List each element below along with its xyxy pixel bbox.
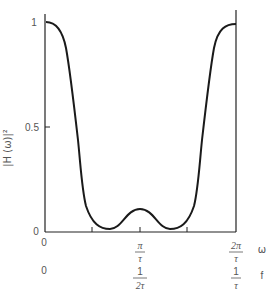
x-tick-label-one-f-den: τ	[234, 280, 238, 291]
x-tick-label-2pi-den: τ	[234, 253, 238, 264]
x-tick-label-2pi-num: 2π	[231, 240, 242, 251]
x-tick-label-pi-den: τ	[138, 253, 142, 264]
x-tick-label-0-f: 0	[41, 265, 47, 276]
x-tick-label-0-omega: 0	[41, 237, 47, 248]
y-tick-label-0: 0	[33, 226, 39, 237]
x-tick-label-half-f-den: 2τ	[136, 280, 145, 291]
response-curve	[46, 22, 236, 229]
omega-axis-label: ω	[258, 244, 266, 255]
x-tick-label-one-f-num: 1	[233, 266, 239, 277]
y-tick-label-half: 0.5	[25, 122, 39, 133]
y-tick-label-1: 1	[31, 17, 37, 28]
y-axis-label: |H (ω)|²	[2, 129, 14, 167]
x-tick-label-pi-num: π	[137, 240, 143, 251]
f-axis-label: f	[261, 270, 264, 281]
frequency-response-chart: 1 0.5 0 |H (ω)|² 0 π τ 2π τ ω 0 1 2τ 1 τ…	[0, 0, 274, 297]
x-tick-label-half-f-num: 1	[137, 266, 143, 277]
